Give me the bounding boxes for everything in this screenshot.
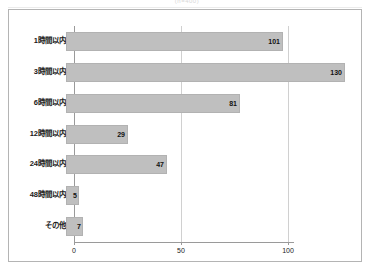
- bar-container-1: 130: [66, 57, 363, 88]
- x-tick-50: [181, 242, 182, 245]
- bar-value-5: 5: [66, 186, 79, 205]
- category-label-5: 48時間以内: [9, 180, 66, 211]
- table-row: その他 7: [9, 211, 363, 242]
- category-label-6: その他: [9, 211, 66, 242]
- title-divider: [8, 7, 362, 8]
- x-tick-0: [74, 242, 75, 245]
- category-label-3: 12時間以内: [9, 119, 66, 150]
- category-label-1: 3時間以内: [9, 57, 66, 88]
- table-row: 48時間以内 5: [9, 180, 363, 211]
- table-row: 12時間以内 29: [9, 119, 363, 150]
- category-label-2: 6時間以内: [9, 88, 66, 119]
- category-label-0: 1時間以内: [9, 26, 66, 57]
- bar-container-3: 29: [66, 119, 363, 150]
- x-axis-line: [74, 242, 294, 243]
- table-row: 24時間以内 47: [9, 149, 363, 180]
- chart-title: (n=400): [0, 0, 374, 6]
- bar-container-0: 101: [66, 26, 363, 57]
- bar-value-4: 47: [66, 155, 167, 174]
- table-row: 6時間以内 81: [9, 88, 363, 119]
- bar-value-0: 101: [66, 32, 283, 51]
- bar-value-2: 81: [66, 94, 240, 113]
- table-row: 1時間以内 101: [9, 26, 363, 57]
- x-tick-label-50: 50: [166, 247, 196, 254]
- bar-value-6: 7: [66, 217, 83, 236]
- bar-chart: (n=400) 1時間以内 101 3時間以内 130: [0, 0, 374, 270]
- x-tick-100: [288, 242, 289, 245]
- category-label-4: 24時間以内: [9, 149, 66, 180]
- bar-container-6: 7: [66, 211, 363, 242]
- x-tick-label-100: 100: [273, 247, 303, 254]
- chart-plot-frame: 1時間以内 101 3時間以内 130 6時間以内 81: [8, 9, 362, 262]
- bar-value-3: 29: [66, 125, 128, 144]
- bar-container-2: 81: [66, 88, 363, 119]
- bar-value-1: 130: [66, 63, 345, 82]
- bar-rows: 1時間以内 101 3時間以内 130 6時間以内 81: [9, 10, 363, 226]
- table-row: 3時間以内 130: [9, 57, 363, 88]
- bar-container-5: 5: [66, 180, 363, 211]
- x-tick-label-0: 0: [59, 247, 89, 254]
- bar-container-4: 47: [66, 149, 363, 180]
